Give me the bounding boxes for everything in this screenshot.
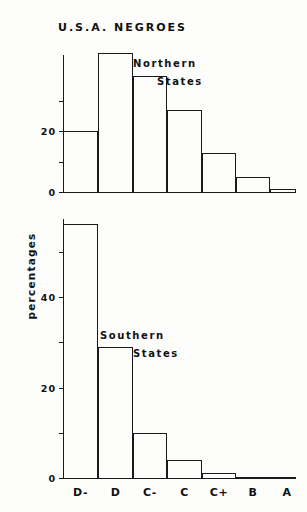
annotation-southern-line2: States [133, 348, 179, 359]
xlabel-c: C [167, 486, 202, 499]
bar-southern-b [236, 477, 270, 479]
bar-southern-c [167, 460, 202, 479]
figure-page: U.S.A. NEGROES percentages 0 20 Northern… [0, 0, 307, 512]
chart-southern-states: 0 20 40 Southern States [0, 0, 307, 512]
southern-ytick-label-20: 20 [24, 383, 56, 394]
xlabel-d: D [98, 486, 133, 499]
bar-southern-d [98, 347, 133, 479]
southern-ytick-label-40: 40 [24, 292, 56, 303]
bar-southern-d-minus [63, 224, 98, 479]
bar-southern-a [270, 477, 296, 479]
xlabel-a: A [270, 486, 304, 499]
annotation-southern-line1: Southern [100, 330, 165, 341]
bar-southern-c-plus [202, 473, 236, 479]
bar-southern-c-minus [133, 433, 167, 479]
southern-ytick-label-0: 0 [24, 473, 56, 484]
xlabel-b: B [236, 486, 270, 499]
xlabel-c-plus: C+ [202, 486, 236, 499]
xlabel-c-minus: C- [133, 486, 167, 499]
xlabel-d-minus: D- [63, 486, 98, 499]
